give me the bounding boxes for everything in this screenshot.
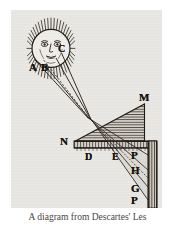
- label-M: M: [139, 92, 149, 103]
- label-A: A: [29, 62, 37, 73]
- label-G: G: [131, 183, 140, 194]
- label-B: B: [41, 62, 48, 73]
- figure-caption: A diagram from Descartes' Les: [0, 212, 175, 230]
- label-E: E: [112, 152, 119, 162]
- label-D: D: [85, 152, 92, 162]
- label-C: C: [58, 44, 65, 54]
- figure-plate-container: A B C M N D E P H G P A diagram from Des…: [0, 0, 175, 230]
- label-P-upper: P: [131, 150, 138, 161]
- label-H: H: [131, 165, 140, 176]
- label-N: N: [60, 136, 68, 147]
- engraving-plate: A B C M N D E P H G P: [11, 10, 162, 208]
- vertical-screen-wall: [148, 141, 157, 208]
- label-P-lower: P: [131, 195, 138, 206]
- diagram-svg: [11, 10, 162, 208]
